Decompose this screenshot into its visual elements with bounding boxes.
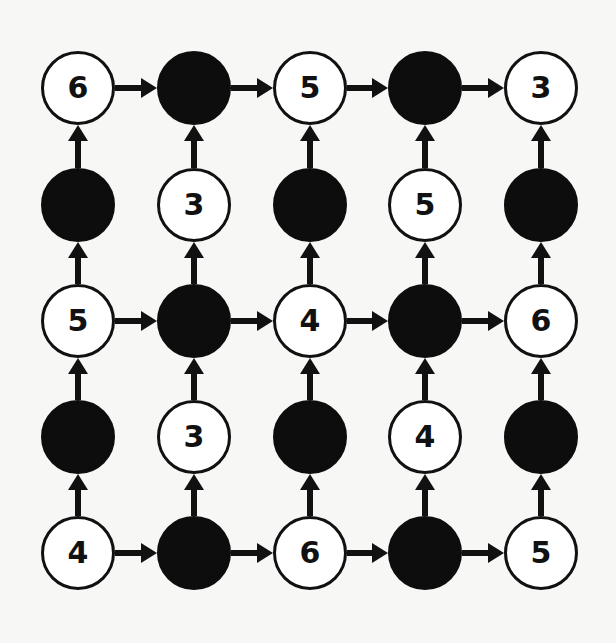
node-r2-c4: 6 xyxy=(504,284,578,358)
arrow-right-icon xyxy=(231,78,273,98)
arrow-up-icon xyxy=(415,125,435,168)
arrow-up-icon xyxy=(531,242,551,284)
node-r4-c4: 5 xyxy=(504,516,578,590)
arrow-up-icon xyxy=(415,474,435,516)
node-value: 3 xyxy=(184,422,205,452)
arrow-up-icon xyxy=(531,474,551,516)
node-r0-c3 xyxy=(388,51,462,125)
arrow-up-icon xyxy=(531,358,551,400)
puzzle-diagram: 6 5 3 3 5 5 4 6 3 4 4 6 5 xyxy=(0,0,616,643)
node-value: 6 xyxy=(68,73,89,103)
node-value: 6 xyxy=(531,306,552,336)
node-r0-c1 xyxy=(157,51,231,125)
arrow-right-icon xyxy=(347,78,388,98)
arrow-up-icon xyxy=(68,125,88,168)
arrow-up-icon xyxy=(300,242,320,284)
node-r2-c1 xyxy=(157,284,231,358)
arrow-up-icon xyxy=(300,125,320,168)
node-r4-c1 xyxy=(157,516,231,590)
node-value: 5 xyxy=(300,73,321,103)
node-value: 6 xyxy=(300,538,321,568)
arrow-up-icon xyxy=(415,358,435,400)
node-value: 3 xyxy=(531,73,552,103)
node-value: 5 xyxy=(415,190,436,220)
arrow-right-icon xyxy=(462,543,504,563)
arrow-right-icon xyxy=(115,311,157,331)
node-r3-c1: 3 xyxy=(157,400,231,474)
node-r1-c4 xyxy=(504,168,578,242)
node-value: 5 xyxy=(531,538,552,568)
node-r0-c2: 5 xyxy=(273,51,347,125)
node-value: 5 xyxy=(68,306,89,336)
arrow-up-icon xyxy=(531,125,551,168)
node-value: 4 xyxy=(300,306,321,336)
node-value: 3 xyxy=(184,190,205,220)
arrow-up-icon xyxy=(68,358,88,400)
arrow-up-icon xyxy=(68,474,88,516)
arrow-up-icon xyxy=(184,125,204,168)
arrow-right-icon xyxy=(347,543,388,563)
node-r1-c0 xyxy=(41,168,115,242)
node-value: 4 xyxy=(68,538,89,568)
arrow-right-icon xyxy=(462,78,504,98)
node-r4-c0: 4 xyxy=(41,516,115,590)
node-r0-c4: 3 xyxy=(504,51,578,125)
node-r1-c1: 3 xyxy=(157,168,231,242)
node-r4-c2: 6 xyxy=(273,516,347,590)
arrow-right-icon xyxy=(347,311,388,331)
node-r2-c0: 5 xyxy=(41,284,115,358)
node-r3-c4 xyxy=(504,400,578,474)
arrow-up-icon xyxy=(68,242,88,284)
arrow-right-icon xyxy=(115,543,157,563)
node-r0-c0: 6 xyxy=(41,51,115,125)
arrow-right-icon xyxy=(115,78,157,98)
arrow-right-icon xyxy=(231,543,273,563)
arrow-up-icon xyxy=(184,474,204,516)
arrow-up-icon xyxy=(300,474,320,516)
arrow-right-icon xyxy=(231,311,273,331)
arrow-up-icon xyxy=(184,242,204,284)
arrow-up-icon xyxy=(415,242,435,284)
node-r3-c3: 4 xyxy=(388,400,462,474)
node-value: 4 xyxy=(415,422,436,452)
node-r1-c2 xyxy=(273,168,347,242)
node-r2-c3 xyxy=(388,284,462,358)
node-r1-c3: 5 xyxy=(388,168,462,242)
arrow-up-icon xyxy=(300,358,320,400)
node-r3-c0 xyxy=(41,400,115,474)
node-r3-c2 xyxy=(273,400,347,474)
node-r4-c3 xyxy=(388,516,462,590)
arrow-right-icon xyxy=(462,311,504,331)
node-r2-c2: 4 xyxy=(273,284,347,358)
arrow-up-icon xyxy=(184,358,204,400)
